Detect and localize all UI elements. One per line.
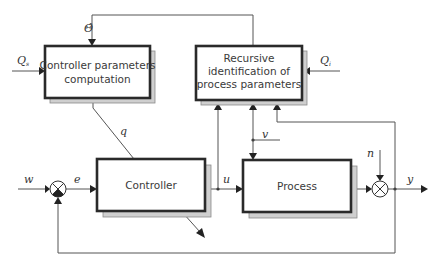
qi-label: Q (320, 54, 329, 67)
w-arrowhead (45, 185, 50, 193)
process-out-arrowhead (366, 185, 372, 193)
block-diagram: Controller parameters computation Recurs… (0, 0, 438, 265)
q-wire (93, 98, 134, 159)
qs-subscript: s (26, 60, 29, 67)
theta-hat-label: Θ̂ (84, 22, 93, 35)
controller-block: Controller (97, 159, 211, 217)
y-label: y (406, 173, 414, 186)
n-arrowhead (376, 175, 384, 181)
process-block: Process (243, 160, 357, 218)
controller-params-label-2: computation (64, 73, 130, 85)
identification-block: Recursive identification of process para… (196, 46, 307, 105)
process-label: Process (277, 180, 317, 192)
error-summing-junction (50, 181, 66, 197)
identification-label-2: identification of (208, 65, 290, 77)
qs-label: Q (17, 54, 26, 67)
identification-label-1: Recursive (223, 52, 274, 64)
theta-hat-wire (92, 15, 253, 46)
controller-params-label-1: Controller parameters (40, 59, 156, 71)
u-label: u (223, 173, 230, 186)
q-label: q (120, 125, 127, 138)
controller-params-block: Controller parameters computation (40, 46, 156, 103)
v-label: v (262, 128, 269, 141)
y-arrowhead (421, 185, 428, 193)
n-label: n (367, 147, 374, 160)
controller-label: Controller (125, 179, 177, 191)
e-label: e (74, 173, 81, 186)
qi-subscript: i (329, 60, 331, 67)
feedback-arrowhead (54, 197, 62, 204)
noise-summing-junction (372, 181, 388, 197)
w-label: w (24, 173, 34, 186)
identification-label-3: process parameters (197, 78, 302, 90)
controller-params-box (45, 46, 150, 98)
